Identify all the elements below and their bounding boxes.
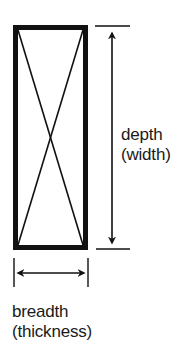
breadth-label: breadth (thickness) [12, 302, 92, 342]
breadth-term: breadth [12, 302, 92, 322]
breadth-alt-term: (thickness) [12, 322, 92, 342]
diagonal-cross-icon [18, 30, 83, 245]
depth-term: depth [121, 125, 171, 145]
depth-label: depth (width) [121, 125, 171, 165]
depth-alt-term: (width) [121, 145, 171, 165]
